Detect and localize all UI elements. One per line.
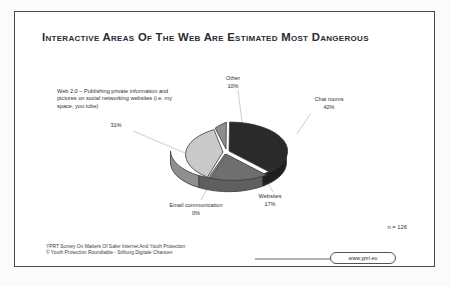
value-websites: 17% bbox=[239, 201, 301, 207]
value-email-communication: 0% bbox=[153, 210, 239, 216]
value-chat-rooms: 42% bbox=[293, 104, 365, 110]
url-badge[interactable]: www.yprt.eu bbox=[330, 252, 396, 264]
label-websites: Websites bbox=[239, 193, 301, 200]
value-other: 10% bbox=[201, 83, 265, 89]
page-background: Interactive Areas Of The Web Are Estimat… bbox=[0, 0, 450, 286]
slide-card: Interactive Areas Of The Web Are Estimat… bbox=[14, 11, 435, 267]
label-web20: Web 2.0 – Publishing private information… bbox=[57, 88, 185, 110]
label-other: Other bbox=[201, 75, 265, 82]
value-web20: 31% bbox=[57, 122, 175, 128]
url-badge-label: www.yprt.eu bbox=[331, 253, 395, 263]
footer-line-2: © Youth Protection Roundtable - Stiftung… bbox=[46, 250, 185, 256]
label-chat-rooms: Chat rooms bbox=[293, 96, 365, 103]
sample-size: n = 126 bbox=[335, 224, 407, 230]
footer-source: YPRT Survey On Matters Of Safer Internet… bbox=[46, 244, 185, 257]
label-email-communication: Email communication bbox=[153, 202, 239, 209]
